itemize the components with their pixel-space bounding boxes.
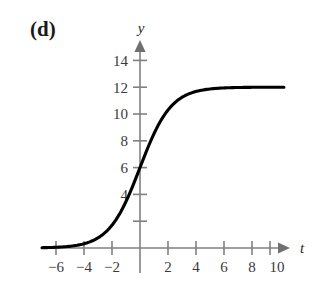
x-tick-label: −6 (48, 259, 64, 275)
x-tick-label: 8 (248, 259, 256, 275)
logistic-curve (42, 87, 284, 247)
y-tick-label: 10 (113, 106, 128, 122)
y-tick-label: 12 (113, 80, 128, 96)
y-tick-label: 6 (121, 160, 129, 176)
x-tick-label: 4 (192, 259, 200, 275)
x-tick-label: −2 (104, 259, 120, 275)
graph-canvas: −6 −4 −2 2 4 6 8 10 14 12 10 8 6 4 y t (0, 0, 319, 297)
x-tick-label: −4 (76, 259, 92, 275)
y-tick-label: 8 (121, 133, 129, 149)
x-axis-arrow-icon (278, 242, 290, 253)
x-tick-label: 10 (270, 259, 285, 275)
x-tick-label: 6 (220, 259, 228, 275)
y-tick-label: 14 (113, 53, 129, 69)
y-axis-name: y (136, 20, 145, 36)
x-axis-name: t (300, 240, 305, 256)
y-axis-arrow-icon (134, 40, 145, 52)
figure-panel: (d) −6 (0, 0, 319, 297)
x-tick-label: 2 (164, 259, 172, 275)
